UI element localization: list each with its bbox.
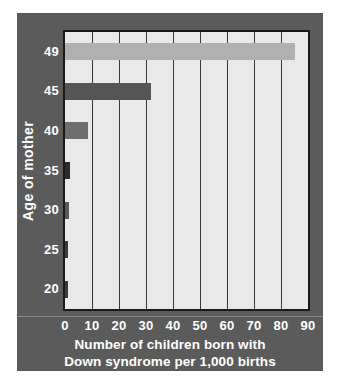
bar-35 xyxy=(65,162,70,179)
x-axis-title-line-2: Down syndrome per 1,000 births xyxy=(17,353,323,370)
bar-25 xyxy=(65,241,68,258)
bar-row xyxy=(65,83,308,100)
plot-area xyxy=(63,30,310,311)
y-tick-label-35: 35 xyxy=(17,164,59,178)
x-tick-label-80: 80 xyxy=(266,318,296,333)
x-tick-label-10: 10 xyxy=(77,318,107,333)
x-axis-title-line-1: Number of children born with xyxy=(17,336,323,353)
x-axis-line xyxy=(17,316,323,317)
bar-20 xyxy=(65,281,68,298)
x-tick-label-60: 60 xyxy=(212,318,242,333)
x-tick-label-90: 90 xyxy=(293,318,323,333)
x-tick-label-40: 40 xyxy=(158,318,188,333)
bar-row xyxy=(65,43,308,60)
x-tick-label-0: 0 xyxy=(50,318,80,333)
bar-30 xyxy=(65,202,69,219)
bar-49 xyxy=(65,43,295,60)
y-tick-label-40: 40 xyxy=(17,124,59,138)
y-tick-label-49: 49 xyxy=(17,45,59,59)
plot-inner xyxy=(65,32,308,309)
y-tick-label-45: 45 xyxy=(17,84,59,98)
bar-row xyxy=(65,162,308,179)
chart-figure: Age of mother 20253035404549 01020304050… xyxy=(0,0,340,384)
bar-40 xyxy=(65,122,88,139)
bar-row xyxy=(65,202,308,219)
bar-row xyxy=(65,122,308,139)
x-axis-title: Number of children born withDown syndrom… xyxy=(17,336,323,370)
y-tick-label-25: 25 xyxy=(17,243,59,257)
y-tick-label-20: 20 xyxy=(17,282,59,296)
y-tick-label-30: 30 xyxy=(17,203,59,217)
x-tick-label-30: 30 xyxy=(131,318,161,333)
x-tick-label-50: 50 xyxy=(185,318,215,333)
bar-45 xyxy=(65,83,151,100)
bar-row xyxy=(65,281,308,298)
bar-row xyxy=(65,241,308,258)
x-tick-label-20: 20 xyxy=(104,318,134,333)
x-tick-label-70: 70 xyxy=(239,318,269,333)
